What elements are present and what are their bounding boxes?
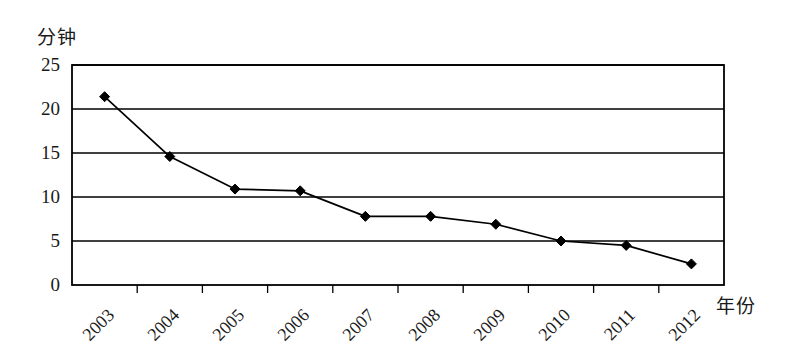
x-axis-tick-marks (137, 285, 659, 293)
data-point-marker (621, 240, 631, 250)
data-point-marker (686, 259, 696, 269)
data-series-line (105, 97, 692, 264)
plot-frame (72, 65, 724, 285)
data-point-marker (491, 219, 501, 229)
series-line (105, 97, 692, 264)
data-point-marker (295, 186, 305, 196)
line-chart: 分钟 年份 0510152025 20032004200520062007200… (0, 0, 789, 364)
data-point-markers (100, 92, 697, 269)
data-point-marker (230, 184, 240, 194)
data-point-marker (426, 211, 436, 221)
frame-rect (72, 65, 724, 285)
data-point-marker (556, 236, 566, 246)
plot-area (0, 0, 789, 364)
data-point-marker (360, 211, 370, 221)
